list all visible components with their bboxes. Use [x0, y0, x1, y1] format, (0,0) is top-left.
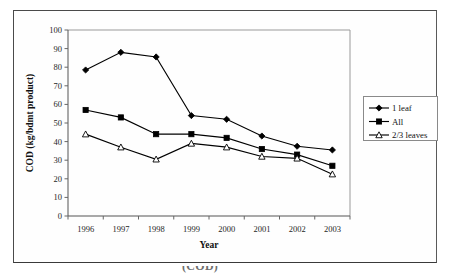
y-tick-label: 60	[54, 99, 63, 109]
marker-diamond	[294, 143, 300, 149]
legend-label: 2/3 leaves	[392, 130, 428, 140]
marker-square	[118, 115, 123, 120]
x-axis: 19961997199819992000200120022003	[68, 216, 350, 234]
y-tick-label: 10	[54, 192, 63, 202]
y-tick-label: 0	[58, 211, 62, 221]
y-tick-label: 100	[49, 25, 62, 35]
x-tick-label: 1999	[183, 224, 200, 234]
y-tick-label: 50	[54, 118, 63, 128]
x-tick-label: 2002	[289, 224, 306, 234]
legend-label: All	[392, 117, 404, 127]
y-axis: 0102030405060708090100	[49, 25, 68, 221]
y-tick-label: 70	[54, 81, 63, 91]
marker-square	[376, 119, 381, 124]
y-tick-label: 20	[54, 174, 63, 184]
marker-square	[330, 163, 335, 168]
y-tick-label: 80	[54, 62, 63, 72]
line-chart: 0102030405060708090100 19961997199819992…	[0, 0, 452, 279]
x-tick-label: 1996	[77, 224, 94, 234]
caption-text: (COD)	[182, 266, 438, 274]
caption-bleed-fragment: (COD)	[14, 266, 438, 279]
series-layer	[82, 49, 335, 177]
series-line	[86, 52, 333, 150]
marker-diamond	[224, 116, 230, 122]
x-axis-ticks	[68, 216, 350, 220]
x-tick-label: 1997	[112, 224, 129, 234]
x-tick-label: 2003	[324, 224, 341, 234]
legend-label: 1 leaf	[392, 103, 412, 113]
marker-square	[224, 135, 229, 140]
x-axis-title: Year	[200, 240, 220, 250]
marker-diamond	[83, 67, 89, 73]
marker-diamond	[188, 112, 194, 118]
marker-triangle	[82, 131, 88, 137]
chart-legend: 1 leafAll2/3 leaves	[364, 97, 438, 141]
x-tick-label: 2001	[253, 224, 270, 234]
marker-square	[189, 132, 194, 137]
y-tick-label: 30	[54, 155, 63, 165]
x-tick-label: 1998	[148, 224, 165, 234]
marker-diamond	[329, 147, 335, 153]
marker-square	[154, 132, 159, 137]
figure-container: 0102030405060708090100 19961997199819992…	[0, 0, 452, 279]
y-axis-title: COD (kg/bdmt product)	[25, 74, 36, 173]
marker-diamond	[259, 133, 265, 139]
y-tick-label: 90	[54, 44, 63, 54]
x-tick-label: 2000	[218, 224, 235, 234]
x-axis-tick-labels: 19961997199819992000200120022003	[77, 224, 341, 234]
marker-diamond	[118, 49, 124, 55]
marker-diamond	[153, 54, 159, 60]
series-1-leaf	[83, 49, 336, 153]
y-tick-label: 40	[54, 137, 63, 147]
y-axis-ticks	[65, 30, 69, 216]
y-axis-tick-labels: 0102030405060708090100	[49, 25, 62, 221]
marker-triangle	[329, 171, 335, 177]
marker-square	[83, 107, 88, 112]
marker-square	[259, 146, 264, 151]
